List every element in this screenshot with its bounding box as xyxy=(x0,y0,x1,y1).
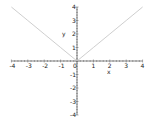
x-tick-label: 0 xyxy=(73,62,77,69)
x-tick-label: -4 xyxy=(9,62,15,69)
x-tick-label: -2 xyxy=(42,62,48,69)
y-tick-label: -2 xyxy=(70,84,76,91)
x-tick-label: 4 xyxy=(141,62,145,69)
y-tick-label: -4 xyxy=(70,111,76,118)
y-axis-label: y xyxy=(62,30,66,38)
x-tick-label: -1 xyxy=(59,62,65,69)
x-axis-label: x xyxy=(107,68,111,75)
y-tick-label: -1 xyxy=(70,71,76,78)
y-tick-label: 1 xyxy=(72,44,76,51)
y-tick-label: 3 xyxy=(72,17,76,24)
y-tick-label: 2 xyxy=(72,30,76,37)
x-tick-label: -3 xyxy=(26,62,32,69)
y-tick-label: -3 xyxy=(70,98,76,105)
y-tick-label: 4 xyxy=(72,3,76,10)
x-tick-label: 3 xyxy=(124,62,128,69)
x-tick-label: 1 xyxy=(91,62,95,69)
abs-value-plot: -4-3-2-1012344321-1-2-3-4 x y xyxy=(0,0,148,135)
